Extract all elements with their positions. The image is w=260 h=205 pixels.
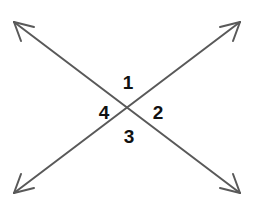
geometry-diagram-canvas [0,0,260,205]
angle-label-3: 3 [124,127,135,146]
intersecting-lines-figure: 1 2 3 4 [0,0,260,205]
angle-label-1: 1 [123,73,134,92]
angle-label-4: 4 [99,103,110,122]
angle-label-2: 2 [153,103,164,122]
